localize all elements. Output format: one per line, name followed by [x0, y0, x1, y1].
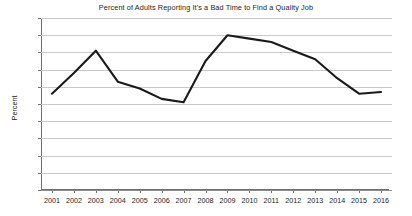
x-axis-tick-label: 2006	[154, 196, 170, 205]
x-axis-tick-label: 2010	[241, 196, 257, 205]
x-axis-tick-label: 2009	[219, 196, 235, 205]
gridline	[41, 190, 392, 191]
x-axis-tick-label: 2007	[176, 196, 192, 205]
chart-title: Percent of Adults Reporting It's a Bad T…	[0, 3, 412, 12]
x-axis-tick-label: 2011	[264, 196, 279, 205]
x-axis-tick-label: 2016	[373, 196, 389, 205]
data-series-line	[41, 18, 392, 190]
x-axis-tick-label: 2003	[88, 196, 104, 205]
x-axis-tick-label: 2012	[285, 196, 301, 205]
y-axis-label: Percent	[10, 96, 19, 121]
plot-area	[41, 18, 392, 190]
x-axis-tick-label: 2005	[132, 196, 148, 205]
x-axis-tick-label: 2004	[110, 196, 126, 205]
x-axis-tick-label: 2015	[351, 196, 367, 205]
x-axis-tick-label: 2008	[198, 196, 214, 205]
chart-container: Percent of Adults Reporting It's a Bad T…	[0, 0, 412, 216]
x-axis-tick-label: 2002	[66, 196, 82, 205]
x-axis-tick-label: 2013	[307, 196, 323, 205]
x-axis-tick-label: 2014	[329, 196, 345, 205]
x-axis-tick-label: 2001	[44, 196, 60, 205]
